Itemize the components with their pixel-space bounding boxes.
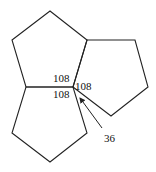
angle-label-top: 108	[53, 72, 70, 84]
pentagon-diagram: 108 108 108 36	[0, 0, 156, 172]
angle-label-right: 108	[75, 80, 92, 92]
top-pentagon	[12, 11, 87, 87]
gap-angle-arrow	[80, 98, 102, 128]
bottom-pentagon	[12, 87, 87, 162]
angle-label-bottom: 108	[53, 88, 70, 100]
gap-angle-label: 36	[104, 132, 116, 144]
